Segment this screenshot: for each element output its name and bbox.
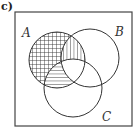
set-label-b: B xyxy=(114,25,124,39)
set-label-c: C xyxy=(102,110,111,124)
venn-diagram: A B C xyxy=(0,0,135,131)
set-label-a: A xyxy=(21,26,31,40)
